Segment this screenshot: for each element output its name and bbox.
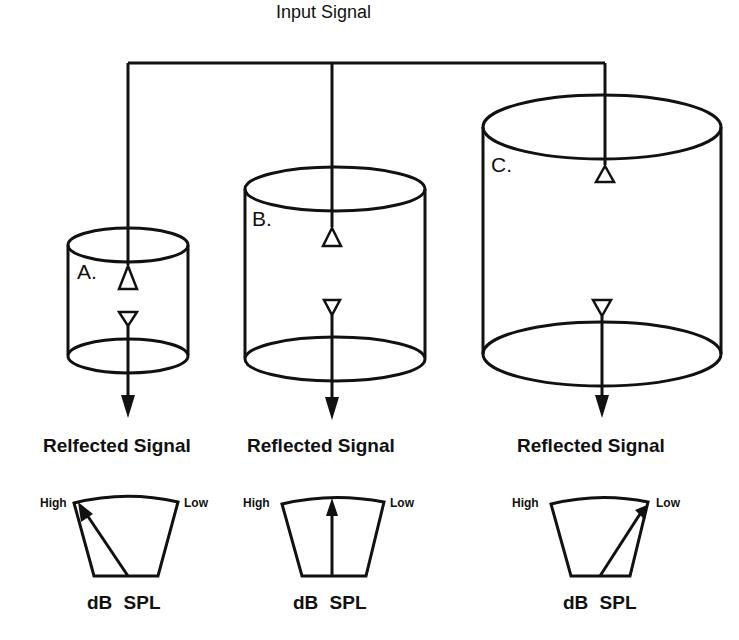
reflected-signal-label-c: Reflected Signal (517, 435, 665, 457)
reflected-signal-label-a: Relfected Signal (43, 435, 191, 457)
needle-head-b-icon (326, 498, 338, 516)
meter-c (551, 497, 648, 576)
emitter-a-icon (119, 266, 137, 289)
meter-c-unit-label: dB SPL (563, 592, 637, 614)
diagram-canvas (0, 0, 739, 640)
cylinder-a-label: A. (77, 260, 97, 284)
meter-a-unit-label: dB SPL (87, 592, 161, 614)
arrow-down-b-icon (325, 397, 339, 420)
cylinder-c-label: C. (491, 153, 512, 177)
receiver-b-icon (324, 300, 340, 315)
emitter-c-icon (596, 166, 614, 182)
receiver-a-icon (119, 312, 137, 326)
input-signal-label: Input Signal (276, 2, 371, 23)
cylinder-b (245, 167, 425, 381)
meter-b-high-label: High (243, 496, 270, 510)
reflected-signal-label-b: Reflected Signal (247, 435, 395, 457)
meter-c-high-label: High (512, 496, 539, 510)
receiver-c-icon (593, 300, 611, 316)
meter-b-low-label: Low (390, 496, 414, 510)
meter-c-low-label: Low (656, 496, 680, 510)
arrow-down-a-icon (121, 395, 135, 418)
arrow-down-c-icon (595, 395, 609, 418)
meter-a-high-label: High (40, 496, 67, 510)
meter-b-unit-label: dB SPL (293, 592, 367, 614)
cylinder-b-label: B. (252, 207, 272, 231)
emitter-b-icon (323, 228, 341, 246)
meter-a (74, 496, 178, 576)
meter-a-low-label: Low (184, 496, 208, 510)
